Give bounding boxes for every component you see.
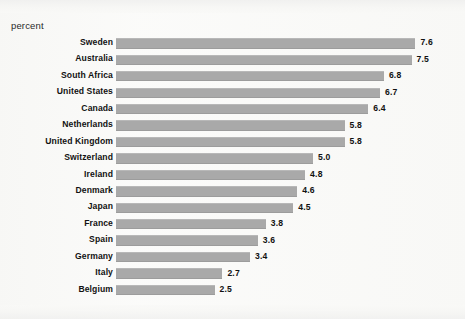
bar-value-label: 7.5 xyxy=(417,54,430,66)
bar-value-label: 3.8 xyxy=(271,218,284,230)
bar-value-label: 5.8 xyxy=(350,120,363,132)
bar xyxy=(116,120,345,130)
bar-row: France3.8 xyxy=(0,218,465,234)
bar-value-label: 5.8 xyxy=(350,136,363,148)
bar-value-label: 4.8 xyxy=(310,169,323,181)
bar-category-label: United Kingdom xyxy=(3,136,113,148)
bar-fill xyxy=(116,268,222,278)
bar-fill xyxy=(116,55,412,65)
bar-chart-figure: percent Sweden7.6Australia7.5South Afric… xyxy=(0,0,465,319)
bar-row: Japan4.5 xyxy=(0,201,465,217)
bar-category-label: Sweden xyxy=(3,37,113,49)
plot-area: Sweden7.6Australia7.5South Africa6.8Unit… xyxy=(0,37,465,305)
bar-value-label: 6.7 xyxy=(385,87,398,99)
bar-category-label: United States xyxy=(3,86,113,98)
bar xyxy=(116,170,305,180)
bar-value-label: 3.4 xyxy=(255,251,268,263)
bar xyxy=(116,219,266,229)
bar-row: Ireland4.8 xyxy=(0,169,465,185)
bar-category-label: Australia xyxy=(3,53,113,65)
bar-row: Denmark4.6 xyxy=(0,185,465,201)
bar-fill xyxy=(116,186,297,196)
bar-category-label: France xyxy=(3,218,113,230)
bar-row: Germany3.4 xyxy=(0,251,465,267)
bar-row: United States6.7 xyxy=(0,86,465,102)
bar-row: Sweden7.6 xyxy=(0,37,465,53)
bar-fill xyxy=(116,203,293,213)
bar-row: Spain3.6 xyxy=(0,234,465,250)
bar-fill xyxy=(116,235,258,245)
bar xyxy=(116,55,412,65)
bar-value-label: 2.5 xyxy=(220,284,233,296)
bar-fill xyxy=(116,285,215,295)
bar-fill xyxy=(116,137,345,147)
bar xyxy=(116,71,384,81)
bar xyxy=(116,203,293,213)
bar-value-label: 6.4 xyxy=(373,103,386,115)
scan-artifact-bottom xyxy=(0,305,465,319)
scan-artifact-top xyxy=(0,0,465,13)
bar-fill xyxy=(116,71,384,81)
bar-value-label: 3.6 xyxy=(263,235,276,247)
bar-row: Australia7.5 xyxy=(0,53,465,69)
bar-category-label: Netherlands xyxy=(3,119,113,131)
bar xyxy=(116,186,297,196)
bar-category-label: Italy xyxy=(3,267,113,279)
bar-row: Italy2.7 xyxy=(0,267,465,283)
bar xyxy=(116,104,368,114)
bar-category-label: Japan xyxy=(3,201,113,213)
bar-fill xyxy=(116,252,250,262)
bar-category-label: South Africa xyxy=(3,70,113,82)
bar-row: Switzerland5.0 xyxy=(0,152,465,168)
bar xyxy=(116,235,258,245)
bar-row: Canada6.4 xyxy=(0,103,465,119)
bar-category-label: Denmark xyxy=(3,185,113,197)
bar-fill xyxy=(116,104,368,114)
bar-fill xyxy=(116,219,266,229)
bar-category-label: Ireland xyxy=(3,169,113,181)
bar-category-label: Switzerland xyxy=(3,152,113,164)
bar-row: United Kingdom5.8 xyxy=(0,136,465,152)
bar xyxy=(116,268,222,278)
bar xyxy=(116,252,250,262)
bar xyxy=(116,88,380,98)
bar-fill xyxy=(116,120,345,130)
bar-value-label: 2.7 xyxy=(227,268,240,280)
bar xyxy=(116,137,345,147)
bar-fill xyxy=(116,153,313,163)
bar-category-label: Germany xyxy=(3,251,113,263)
bar-value-label: 7.6 xyxy=(420,37,433,49)
bar-fill xyxy=(116,170,305,180)
bar xyxy=(116,153,313,163)
axis-unit-label: percent xyxy=(11,20,44,31)
bar-value-label: 5.0 xyxy=(318,152,331,164)
bar-category-label: Canada xyxy=(3,103,113,115)
bar-row: South Africa6.8 xyxy=(0,70,465,86)
bar-row: Belgium2.5 xyxy=(0,284,465,300)
bar-fill xyxy=(116,88,380,98)
bar-category-label: Spain xyxy=(3,234,113,246)
bar-fill xyxy=(116,38,415,48)
bar-category-label: Belgium xyxy=(3,284,113,296)
bar xyxy=(116,285,215,295)
bar-row: Netherlands5.8 xyxy=(0,119,465,135)
bar xyxy=(116,38,415,48)
bar-value-label: 4.5 xyxy=(298,202,311,214)
bar-value-label: 4.6 xyxy=(302,185,315,197)
bar-value-label: 6.8 xyxy=(389,70,402,82)
